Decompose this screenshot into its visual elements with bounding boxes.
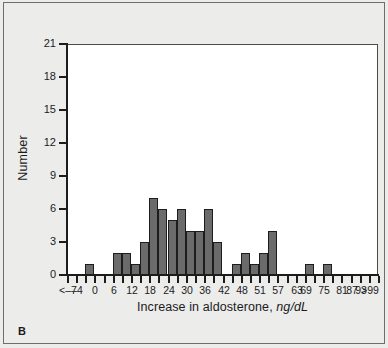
- x-axis-tick: [314, 276, 316, 283]
- x-axis-tick: [287, 276, 289, 283]
- x-axis-tick: [232, 276, 234, 283]
- x-axis-tick: [351, 276, 353, 283]
- histogram-bar: [113, 253, 122, 275]
- x-axis-tick: [149, 276, 151, 283]
- y-axis-tick: [59, 142, 66, 144]
- histogram-bar: [85, 264, 94, 275]
- histogram-bar: [131, 264, 140, 275]
- x-axis-tick: [305, 276, 307, 283]
- x-axis-tick-label: 48: [236, 284, 248, 296]
- x-axis-tick: [213, 276, 215, 283]
- x-axis-tick-label: 30: [181, 284, 193, 296]
- x-axis-tick: [131, 276, 133, 283]
- y-axis-title: Number: [16, 123, 30, 193]
- y-axis-tick: [59, 109, 66, 111]
- panel-letter: B: [18, 325, 26, 337]
- histogram-bar: [122, 253, 131, 275]
- histogram-bar: [323, 264, 332, 275]
- x-axis-tick: [241, 276, 243, 283]
- x-axis-tick: [186, 276, 188, 283]
- x-axis-tick: [94, 276, 96, 283]
- x-axis-tick: [104, 276, 106, 283]
- x-axis-tick-label: 18: [144, 284, 156, 296]
- x-axis-tick: [223, 276, 225, 283]
- histogram-bar: [250, 264, 259, 275]
- x-axis-tick-label: 51: [254, 284, 266, 296]
- y-axis-tick-label: 21: [26, 38, 56, 49]
- x-axis-tick: [195, 276, 197, 283]
- y-axis-tick: [59, 241, 66, 243]
- histogram-bar: [158, 209, 167, 275]
- y-axis-tick-label: 6: [26, 203, 56, 214]
- x-axis-tick-label: 42: [218, 284, 230, 296]
- x-axis-tick: [250, 276, 252, 283]
- histogram-bar: [168, 220, 177, 275]
- x-axis-tick-label: 0: [92, 284, 98, 296]
- histogram-bar: [149, 198, 158, 275]
- plot-area: [67, 44, 378, 275]
- x-axis-tick: [122, 276, 124, 283]
- x-axis-tick: [341, 276, 343, 283]
- x-axis-title-units: ng/dL: [276, 300, 308, 314]
- x-axis-tick: [360, 276, 362, 283]
- y-axis-tick-label: 9: [26, 170, 56, 181]
- x-axis-tick: [67, 276, 69, 283]
- histogram-bar: [232, 264, 241, 275]
- histogram-bar: [177, 209, 186, 275]
- x-axis-tick: [204, 276, 206, 283]
- histogram-bar: [268, 231, 277, 275]
- histogram-bar: [186, 231, 195, 275]
- histogram-bar: [140, 242, 149, 275]
- y-axis-tick-label: 12: [26, 137, 56, 148]
- histogram-bar: [305, 264, 314, 275]
- x-axis-tick-label: 6: [111, 284, 117, 296]
- histogram-bar: [213, 242, 222, 275]
- x-axis-title-text: Increase in aldosterone,: [137, 300, 273, 314]
- x-axis-tick: [277, 276, 279, 283]
- y-axis-tick: [59, 43, 66, 45]
- x-axis-tick: [296, 276, 298, 283]
- x-axis-tick: [140, 276, 142, 283]
- x-axis-tick-label: >99: [361, 284, 379, 296]
- histogram-bar: [195, 231, 204, 275]
- y-axis-tick: [59, 175, 66, 177]
- y-axis-tick-label: 18: [26, 71, 56, 82]
- x-axis-tick-label: 36: [199, 284, 211, 296]
- x-axis-tick: [378, 276, 380, 283]
- histogram-bar: [241, 253, 250, 275]
- x-axis-tick: [168, 276, 170, 283]
- y-axis-tick-label: 0: [26, 269, 56, 280]
- x-axis-tick: [369, 276, 371, 283]
- x-axis-tick: [259, 276, 261, 283]
- histogram-bar: [259, 253, 268, 275]
- x-axis-tick: [332, 276, 334, 283]
- x-axis-tick-label: 24: [163, 284, 175, 296]
- x-axis-tick: [113, 276, 115, 283]
- x-axis-tick-label: –4: [71, 284, 83, 296]
- y-axis-tick: [59, 76, 66, 78]
- x-axis-tick: [85, 276, 87, 283]
- x-axis-title: Increase in aldosterone, ng/dL: [67, 300, 378, 314]
- x-axis-tick-label: 75: [318, 284, 330, 296]
- x-axis-tick-label: 69: [300, 284, 312, 296]
- x-axis-tick: [177, 276, 179, 283]
- y-axis-tick: [59, 208, 66, 210]
- x-axis-tick: [76, 276, 78, 283]
- y-axis-tick-label: 3: [26, 236, 56, 247]
- x-axis-tick: [268, 276, 270, 283]
- x-axis-tick: [323, 276, 325, 283]
- y-axis-line: [66, 43, 68, 276]
- x-axis-tick-label: 12: [126, 284, 138, 296]
- x-axis-tick-label: 57: [272, 284, 284, 296]
- x-axis-tick: [158, 276, 160, 283]
- figure-panel: 036912151821 <–7–40612182430364248515763…: [0, 0, 388, 348]
- y-axis-tick-label: 15: [26, 104, 56, 115]
- histogram-bar: [204, 209, 213, 275]
- y-axis-tick: [59, 274, 66, 276]
- figure-frame: 036912151821 <–7–40612182430364248515763…: [3, 2, 385, 344]
